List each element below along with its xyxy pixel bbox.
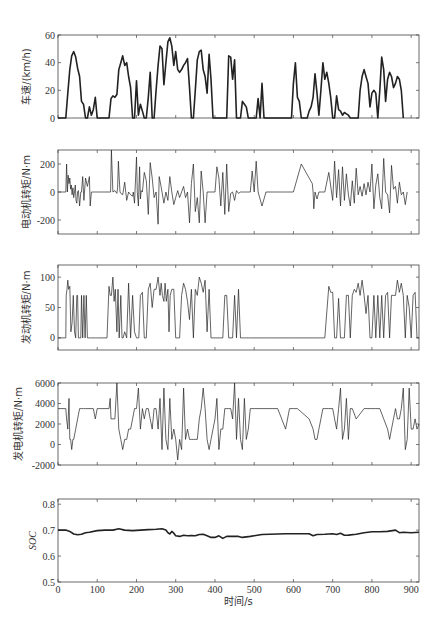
y-axis-label: 电动机转矩/N·m [20, 155, 32, 229]
axes-frame [58, 383, 419, 465]
axes-frame [58, 499, 419, 582]
y-tick-label: 0 [50, 113, 55, 124]
y-tick-label: 200 [40, 159, 55, 170]
x-tick-label: 100 [90, 584, 105, 595]
y-tick-label: 0.6 [43, 551, 56, 562]
y-tick-label: 40 [45, 57, 55, 68]
x-tick-label: 800 [364, 584, 379, 595]
y-tick-label: 0.7 [43, 525, 56, 536]
panel-speed: 0204060车速/(km/h) [20, 30, 419, 124]
axes-frame [58, 35, 419, 118]
panel-soc: 0.50.60.70.8SOC0100200300400500600700800… [27, 499, 419, 607]
x-tick-label: 400 [207, 584, 222, 595]
panel-generator-torque: -20000200040006000发电机转矩/N·m [12, 378, 419, 471]
y-axis-label: 发电机转矩/N·m [12, 387, 24, 461]
data-line [58, 529, 419, 539]
y-tick-label: 0 [50, 439, 55, 450]
y-tick-label: 0.5 [43, 577, 56, 588]
y-tick-label: -200 [37, 215, 55, 226]
y-axis-label: 车速/(km/h) [20, 48, 32, 105]
figure: 0204060车速/(km/h)-2000200电动机转矩/N·m050100发… [0, 0, 444, 638]
data-line [58, 383, 419, 460]
y-tick-label: 0 [50, 187, 55, 198]
y-tick-label: 50 [45, 302, 55, 313]
y-axis-label: 发动机转矩/N·m [20, 271, 32, 345]
data-line [58, 277, 419, 338]
x-tick-label: 0 [56, 584, 61, 595]
y-tick-label: 0.8 [43, 499, 56, 510]
y-axis-label: SOC [27, 531, 38, 550]
data-line [58, 38, 403, 118]
x-tick-label: 500 [247, 584, 262, 595]
x-axis-label: 时间/s [224, 595, 253, 607]
y-tick-label: 2000 [35, 419, 55, 430]
y-tick-label: 6000 [35, 378, 55, 389]
x-tick-label: 600 [286, 584, 301, 595]
x-tick-label: 900 [404, 584, 419, 595]
y-tick-label: -2000 [32, 460, 55, 471]
x-tick-label: 300 [168, 584, 183, 595]
y-tick-label: 0 [50, 332, 55, 343]
panel-motor-torque: -2000200电动机转矩/N·m [20, 150, 419, 234]
y-tick-label: 100 [40, 272, 55, 283]
y-tick-label: 60 [45, 30, 55, 41]
data-line [58, 150, 407, 224]
axes-frame [58, 265, 419, 350]
y-tick-label: 20 [45, 85, 55, 96]
y-tick-label: 4000 [35, 398, 55, 409]
x-tick-label: 200 [129, 584, 144, 595]
x-tick-label: 700 [325, 584, 340, 595]
panel-engine-torque: 050100发动机转矩/N·m [20, 265, 419, 350]
